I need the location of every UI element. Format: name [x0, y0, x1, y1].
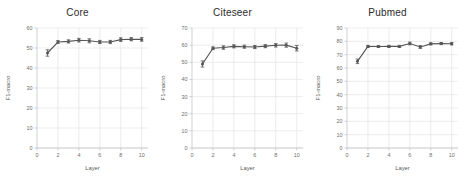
data-point-marker — [429, 42, 432, 45]
x-tick-label: 8 — [119, 152, 122, 158]
data-point-marker — [264, 45, 267, 48]
data-point-marker — [366, 45, 369, 48]
data-point-marker — [274, 44, 277, 47]
x-tick-label: 4 — [387, 152, 390, 158]
y-tick-label: 30 — [337, 105, 343, 111]
x-tick-label: 8 — [429, 152, 432, 158]
data-point-marker — [109, 41, 112, 44]
data-point-marker — [377, 45, 380, 48]
y-tick-label: 80 — [337, 38, 343, 44]
y-tick-label: 70 — [337, 52, 343, 58]
x-tick-label: 6 — [253, 152, 256, 158]
x-tick-label: 10 — [449, 152, 455, 158]
series-line — [47, 39, 141, 53]
data-point-marker — [387, 45, 390, 48]
x-axis-title: Layer — [85, 165, 100, 171]
data-point-marker — [201, 63, 204, 66]
chart-plot-core: 01020304050600246810LayerF1-macro — [0, 20, 155, 185]
y-tick-label: 40 — [27, 65, 33, 71]
y-tick-label: 10 — [27, 125, 33, 131]
data-point-marker — [450, 42, 453, 45]
data-point-marker — [119, 38, 122, 41]
data-point-marker — [232, 45, 235, 48]
chart-panel-citeseer: Citeseer 0102030405060700246810LayerF1-m… — [155, 0, 310, 193]
x-tick-label: 6 — [408, 152, 411, 158]
y-tick-label: 50 — [337, 78, 343, 84]
x-tick-label: 8 — [274, 152, 277, 158]
data-point-marker — [88, 39, 91, 42]
y-tick-label: 0 — [340, 145, 343, 151]
y-tick-label: 30 — [182, 94, 188, 100]
y-axis-title: F1-macro — [315, 76, 321, 101]
data-point-marker — [46, 52, 49, 55]
chart-title: Core — [0, 6, 155, 20]
y-tick-label: 90 — [337, 25, 343, 31]
data-point-marker — [77, 39, 80, 42]
x-tick-label: 10 — [139, 152, 145, 158]
y-tick-label: 50 — [182, 59, 188, 65]
x-tick-label: 2 — [56, 152, 59, 158]
y-tick-label: 40 — [337, 92, 343, 98]
y-tick-label: 20 — [337, 118, 343, 124]
data-point-marker — [222, 46, 225, 49]
x-tick-label: 0 — [191, 152, 194, 158]
x-tick-label: 2 — [366, 152, 369, 158]
y-tick-label: 50 — [27, 45, 33, 51]
y-tick-label: 30 — [27, 85, 33, 91]
x-tick-label: 2 — [211, 152, 214, 158]
data-point-marker — [285, 44, 288, 47]
data-point-marker — [398, 45, 401, 48]
y-tick-label: 0 — [185, 145, 188, 151]
y-axis-title: F1-macro — [160, 76, 166, 101]
data-point-marker — [253, 46, 256, 49]
data-point-marker — [440, 42, 443, 45]
x-tick-label: 4 — [232, 152, 235, 158]
chart-title: Citeseer — [155, 6, 310, 20]
chart-panel-pubmed: Pubmed 01020304050607080900246810LayerF1… — [310, 0, 465, 193]
series-line — [202, 45, 296, 64]
data-point-marker — [98, 41, 101, 44]
data-point-marker — [295, 47, 298, 50]
y-axis-title: F1-macro — [5, 76, 11, 101]
y-tick-label: 60 — [27, 25, 33, 31]
y-tick-label: 10 — [182, 128, 188, 134]
chart-plot-citeseer: 0102030405060700246810LayerF1-macro — [155, 20, 310, 185]
data-point-marker — [211, 47, 214, 50]
multi-panel-figure: Core 01020304050600246810LayerF1-macro C… — [0, 0, 465, 193]
chart-plot-pubmed: 01020304050607080900246810LayerF1-macro — [310, 20, 465, 185]
chart-panel-core: Core 01020304050600246810LayerF1-macro — [0, 0, 155, 193]
x-tick-label: 10 — [294, 152, 300, 158]
data-point-marker — [356, 60, 359, 63]
x-tick-label: 4 — [77, 152, 80, 158]
y-tick-label: 20 — [27, 105, 33, 111]
data-point-marker — [56, 41, 59, 44]
y-tick-label: 10 — [337, 132, 343, 138]
y-tick-label: 60 — [182, 42, 188, 48]
x-tick-label: 0 — [346, 152, 349, 158]
x-axis-title: Layer — [240, 165, 255, 171]
y-tick-label: 0 — [30, 145, 33, 151]
data-point-marker — [419, 45, 422, 48]
data-point-marker — [243, 45, 246, 48]
data-point-marker — [130, 38, 133, 41]
series-line — [357, 43, 451, 61]
y-tick-label: 20 — [182, 111, 188, 117]
y-tick-label: 60 — [337, 65, 343, 71]
chart-title: Pubmed — [310, 6, 465, 20]
data-point-marker — [140, 38, 143, 41]
data-point-marker — [408, 42, 411, 45]
y-tick-label: 40 — [182, 76, 188, 82]
data-point-marker — [67, 40, 70, 43]
x-tick-label: 6 — [98, 152, 101, 158]
x-tick-label: 0 — [36, 152, 39, 158]
x-axis-title: Layer — [395, 165, 410, 171]
y-tick-label: 70 — [182, 25, 188, 31]
